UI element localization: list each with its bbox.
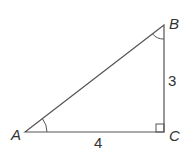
side-label-bc: 3 [168, 73, 176, 88]
angle-arc-a [42, 119, 47, 132]
right-angle-marker [156, 124, 164, 132]
side-label-ac: 4 [94, 135, 102, 149]
vertex-label-c: C [169, 128, 180, 143]
triangle-figure [0, 0, 186, 149]
triangle-abc [25, 25, 164, 132]
vertex-label-b: B [169, 16, 179, 31]
angle-arc-b [153, 34, 165, 39]
vertex-label-a: A [11, 127, 21, 142]
